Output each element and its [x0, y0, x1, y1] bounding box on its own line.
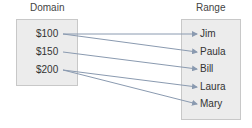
arrow-150-bill: [63, 52, 197, 69]
arrow-200-mary: [63, 70, 197, 104]
mapping-arrows: [0, 0, 252, 128]
arrow-100-paula: [63, 34, 197, 52]
arrow-200-laura: [63, 70, 197, 87]
